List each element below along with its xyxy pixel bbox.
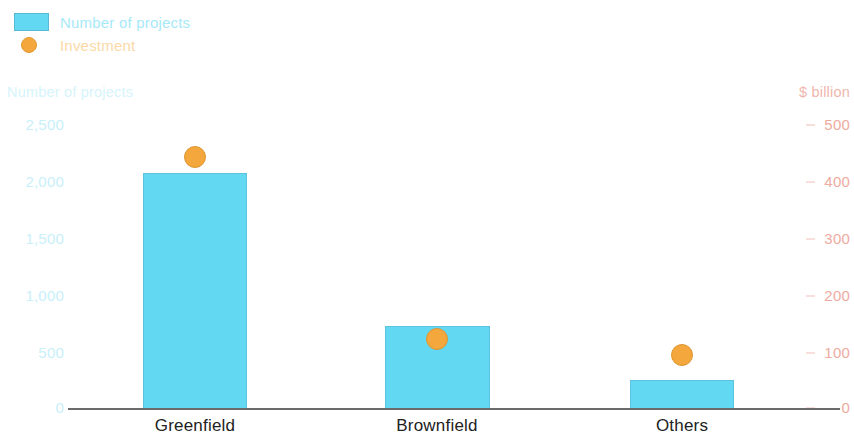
tick-dash-icon xyxy=(806,124,815,125)
bar-greenfield[interactable] xyxy=(143,173,247,408)
right-axis-tick: 100 xyxy=(806,344,850,361)
investment-dot-greenfield[interactable] xyxy=(184,146,206,168)
right-axis-tick-value: 400 xyxy=(820,173,850,190)
tick-dash-icon xyxy=(806,238,815,239)
tick-dash-icon xyxy=(806,352,815,353)
right-axis-tick: 0 xyxy=(806,399,850,416)
right-axis-tick: 300 xyxy=(806,230,850,247)
right-axis-tick: 200 xyxy=(806,287,850,304)
left-axis-tick: 1,500 xyxy=(2,230,64,247)
right-axis-tick-value: 100 xyxy=(820,344,850,361)
category-label-greenfield: Greenfield xyxy=(155,416,235,436)
left-axis-tick: 0 xyxy=(2,399,64,416)
right-axis-tick-value: 0 xyxy=(820,399,850,416)
tick-dash-icon xyxy=(806,181,815,182)
left-axis-tick: 1,000 xyxy=(2,287,64,304)
right-axis-tick-value: 500 xyxy=(820,116,850,133)
left-axis-tick: 500 xyxy=(2,344,64,361)
left-axis-tick: 2,500 xyxy=(2,116,64,133)
category-label-others: Others xyxy=(656,416,708,436)
investment-dot-others[interactable] xyxy=(671,344,693,366)
x-axis-line xyxy=(68,408,840,410)
investment-dot-brownfield[interactable] xyxy=(426,328,448,350)
bar-others[interactable] xyxy=(630,380,734,408)
right-axis-tick: 500 xyxy=(806,116,850,133)
right-axis-tick-value: 200 xyxy=(820,287,850,304)
chart-container: Number of projects Investment Number of … xyxy=(0,0,854,440)
right-axis-tick: 400 xyxy=(806,173,850,190)
left-axis-tick: 2,000 xyxy=(2,173,64,190)
tick-dash-icon xyxy=(806,295,815,296)
plot-area: 2,500 2,000 1,500 1,000 500 0 500 400 30… xyxy=(0,0,854,440)
right-axis-tick-value: 300 xyxy=(820,230,850,247)
category-label-brownfield: Brownfield xyxy=(396,416,477,436)
